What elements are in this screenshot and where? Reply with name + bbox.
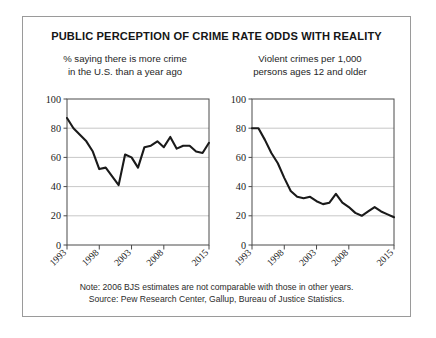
chart-subtitle-perception-line2: in the U.S. than a year ago bbox=[68, 66, 182, 77]
svg-text:2008: 2008 bbox=[329, 246, 350, 267]
svg-text:20: 20 bbox=[51, 210, 61, 221]
footnote-source: Source: Pew Research Center, Gallup, Bur… bbox=[23, 294, 410, 305]
line-chart-violent-crime: 02040608010019931998200320082015 bbox=[222, 93, 398, 278]
svg-text:100: 100 bbox=[46, 94, 61, 105]
svg-text:80: 80 bbox=[51, 123, 61, 134]
svg-text:60: 60 bbox=[51, 152, 61, 163]
svg-text:2015: 2015 bbox=[374, 246, 395, 267]
svg-text:20: 20 bbox=[236, 210, 246, 221]
chart-panel-violent-crime: Violent crimes per 1,000 persons ages 12… bbox=[222, 53, 398, 278]
footnote-note: Note: 2006 BJS estimates are not compara… bbox=[23, 282, 410, 293]
chart-subtitle-violent-crime-line2: persons ages 12 and older bbox=[253, 66, 367, 77]
svg-text:1993: 1993 bbox=[47, 246, 68, 267]
chart-panel-perception: % saying there is more crime in the U.S.… bbox=[37, 53, 213, 278]
chart-subtitle-perception: % saying there is more crime in the U.S.… bbox=[37, 53, 213, 78]
svg-text:100: 100 bbox=[231, 94, 246, 105]
svg-text:2003: 2003 bbox=[297, 246, 318, 267]
svg-text:1998: 1998 bbox=[264, 246, 285, 267]
chart-subtitle-violent-crime: Violent crimes per 1,000 persons ages 12… bbox=[222, 53, 398, 78]
chart-subtitle-violent-crime-line1: Violent crimes per 1,000 bbox=[258, 53, 361, 64]
line-chart-perception: 02040608010019931998200320082015 bbox=[37, 93, 213, 278]
page-title: PUBLIC PERCEPTION OF CRIME RATE ODDS WIT… bbox=[23, 30, 410, 42]
svg-text:40: 40 bbox=[51, 181, 61, 192]
plot-area-perception: 02040608010019931998200320082015 bbox=[37, 93, 213, 278]
svg-text:2015: 2015 bbox=[189, 246, 210, 267]
svg-text:60: 60 bbox=[236, 152, 246, 163]
svg-text:1998: 1998 bbox=[79, 246, 100, 267]
svg-text:40: 40 bbox=[236, 181, 246, 192]
footnote: Note: 2006 BJS estimates are not compara… bbox=[23, 282, 410, 305]
svg-text:80: 80 bbox=[236, 123, 246, 134]
svg-text:1993: 1993 bbox=[232, 246, 253, 267]
figure-panel: PUBLIC PERCEPTION OF CRIME RATE ODDS WIT… bbox=[22, 16, 411, 317]
svg-text:2003: 2003 bbox=[112, 246, 133, 267]
chart-subtitle-perception-line1: % saying there is more crime bbox=[63, 53, 187, 64]
svg-text:2008: 2008 bbox=[144, 246, 165, 267]
plot-area-violent-crime: 02040608010019931998200320082015 bbox=[222, 93, 398, 278]
